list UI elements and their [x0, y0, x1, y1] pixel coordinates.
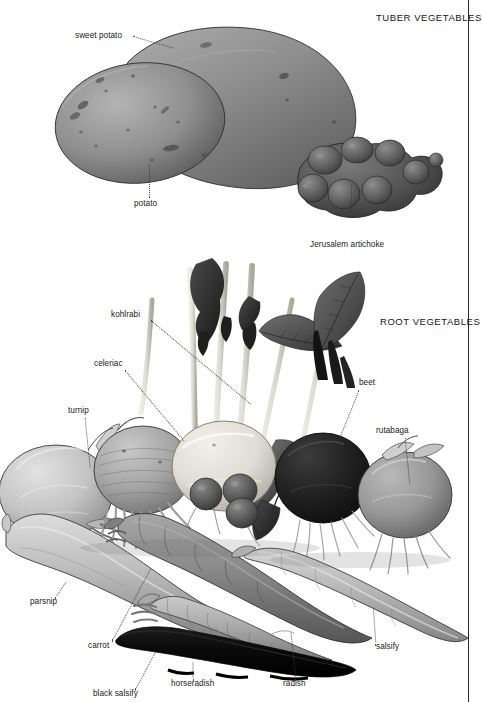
label-beet: beet [359, 378, 375, 387]
label-horseradish: horseradish [171, 679, 214, 688]
label-potato: potato [134, 199, 157, 208]
label-rutabaga: rutabaga [376, 426, 409, 435]
leader-potato [149, 164, 150, 198]
label-black-salsify: black salsify [93, 689, 138, 698]
label-radish: radish [283, 679, 306, 688]
art-jerusalem-artichoke [298, 137, 443, 218]
label-carrot: carrot [88, 641, 109, 650]
section-title-root-vegetables: ROOT VEGETABLES [380, 316, 480, 327]
label-jerusalem-artichoke: Jerusalem artichoke [310, 240, 384, 249]
label-turnip: turnip [68, 406, 89, 415]
label-salsify: salsify [376, 642, 399, 651]
page-vertical-rule [468, 0, 469, 702]
label-parsnip: parsnip [30, 597, 57, 606]
label-sweet-potato: sweet potato [75, 31, 122, 40]
leader-jerusalem-artichoke [351, 184, 352, 212]
label-celeriac: celeriac [94, 359, 123, 368]
leader-horseradish [193, 663, 194, 681]
section-title-tuber-vegetables: TUBER VEGETABLES [376, 12, 482, 23]
label-kohlrabi: kohlrabi [111, 310, 140, 319]
art-kohlrabi [172, 421, 276, 511]
